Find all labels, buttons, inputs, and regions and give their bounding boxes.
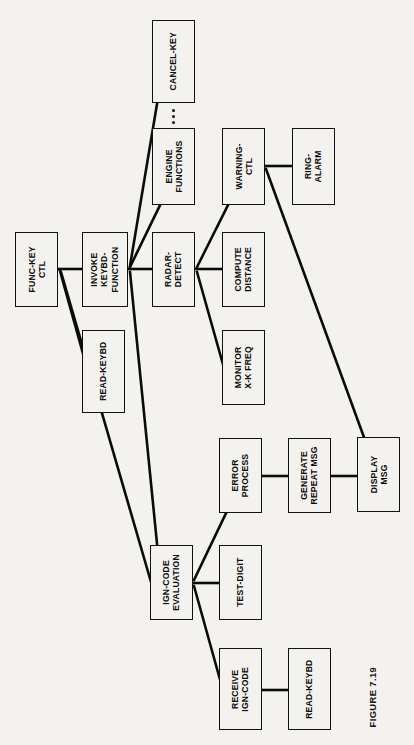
node-engine-functions[interactable]: ENGINEFUNCTIONS — [152, 128, 195, 205]
node-invoke-keybd-function[interactable]: INVOKEKEYBD-FUNCTION — [82, 232, 128, 307]
figure-caption: FIGURE 7.19 — [352, 660, 392, 730]
node-label: RING-ALARM — [303, 150, 324, 182]
node-label: ERRORPROCESS — [230, 454, 251, 497]
node-label: READ-KEYBD — [304, 659, 314, 718]
node-display-msg[interactable]: DISPLAYMSG — [357, 437, 400, 512]
node-func-key-ctl[interactable]: FUNC-KEYCTL — [15, 232, 58, 307]
node-label: RADAR-DETECT — [163, 252, 184, 288]
node-label: TEST-DIGIT — [235, 558, 245, 607]
node-label: ENGINEFUNCTIONS — [163, 141, 184, 193]
node-label: COMPUTEDISTANCE — [233, 247, 254, 292]
node-monitor-xk-freq[interactable]: MONITORX-K FREQ — [222, 330, 265, 405]
node-warning-ctl[interactable]: WARNING-CTL — [222, 128, 265, 205]
node-label: RECEIVEIGN-CODE — [230, 667, 251, 712]
node-label: FUNC-KEYCTL — [26, 247, 47, 293]
node-ring-alarm[interactable]: RING-ALARM — [292, 128, 335, 205]
edge-warning-displaymsg — [266, 169, 365, 440]
node-label: WARNING-CTL — [233, 144, 254, 190]
edge-funckey-igncode — [61, 272, 160, 613]
node-compute-distance[interactable]: COMPUTEDISTANCE — [222, 232, 265, 307]
node-label: MONITORX-K FREQ — [233, 346, 254, 389]
node-receive-ign-code[interactable]: RECEIVEIGN-CODE — [219, 648, 262, 730]
node-label: IGN-CODEEVALUATION — [161, 554, 182, 611]
node-read-keybd-bottom[interactable]: READ-KEYBD — [288, 648, 331, 730]
node-ign-code-evaluation[interactable]: IGN-CODEEVALUATION — [150, 545, 193, 620]
node-error-process[interactable]: ERRORPROCESS — [219, 438, 262, 513]
node-read-keybd-top[interactable]: READ-KEYBD — [82, 330, 125, 413]
node-generate-repeat-msg[interactable]: GENERATEREPEAT MSG — [288, 438, 331, 513]
node-label: CANCEL-KEY — [168, 32, 178, 90]
node-label: READ-KEYBD — [98, 342, 108, 401]
ellipsis-engine-to-cancel — [172, 106, 175, 127]
node-cancel-key[interactable]: CANCEL-KEY — [152, 20, 195, 103]
node-test-digit[interactable]: TEST-DIGIT — [219, 545, 262, 620]
node-radar-detect[interactable]: RADAR-DETECT — [152, 232, 195, 307]
figure-canvas: FUNC-KEYCTL INVOKEKEYBD-FUNCTION READ-KE… — [0, 0, 414, 745]
node-label: GENERATEREPEAT MSG — [299, 446, 320, 504]
node-label: DISPLAYMSG — [368, 456, 389, 494]
connector-lines — [0, 0, 414, 745]
node-label: INVOKEKEYBD-FUNCTION — [89, 247, 120, 293]
